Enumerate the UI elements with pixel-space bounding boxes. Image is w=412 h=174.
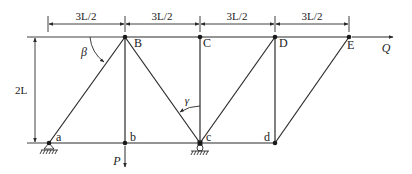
node-label-E: E <box>347 38 354 52</box>
beta-label: β <box>80 45 87 59</box>
node-labels: B C D E a b c d <box>56 36 354 144</box>
gamma-angle-arc <box>180 106 200 112</box>
span-label-1: 3L/2 <box>76 10 97 22</box>
span-label-3: 3L/2 <box>227 10 248 22</box>
web-members <box>49 37 349 143</box>
gamma-label: γ <box>185 94 190 106</box>
nodes <box>47 35 352 146</box>
member-c-D <box>200 37 275 143</box>
node-label-b: b <box>130 130 136 144</box>
roller-circle <box>197 145 203 151</box>
node-B <box>123 35 128 40</box>
node-label-D: D <box>279 36 288 50</box>
node-label-d: d <box>264 130 270 144</box>
truss-diagram: 3L/2 3L/2 3L/2 3L/2 2L β γ P Q <box>0 0 412 174</box>
node-label-a: a <box>56 130 62 144</box>
node-label-c: c <box>206 130 211 144</box>
roller-support-c <box>191 145 209 155</box>
node-c <box>198 141 203 146</box>
member-a-B <box>49 37 125 143</box>
beta-angle-arc <box>90 37 104 62</box>
span-label-4: 3L/2 <box>302 10 323 22</box>
node-label-C: C <box>203 36 211 50</box>
load-P-label: P <box>112 154 121 168</box>
node-d <box>273 141 278 146</box>
height-label: 2L <box>15 84 28 96</box>
member-B-c <box>125 37 200 143</box>
node-b <box>123 141 128 146</box>
node-a <box>47 141 52 146</box>
span-label-2: 3L/2 <box>152 10 173 22</box>
node-C <box>198 35 203 40</box>
node-label-B: B <box>134 36 142 50</box>
node-D <box>273 35 278 40</box>
member-d-E <box>275 37 349 143</box>
load-Q-label: Q <box>382 41 391 55</box>
span-labels: 3L/2 3L/2 3L/2 3L/2 <box>76 10 323 22</box>
